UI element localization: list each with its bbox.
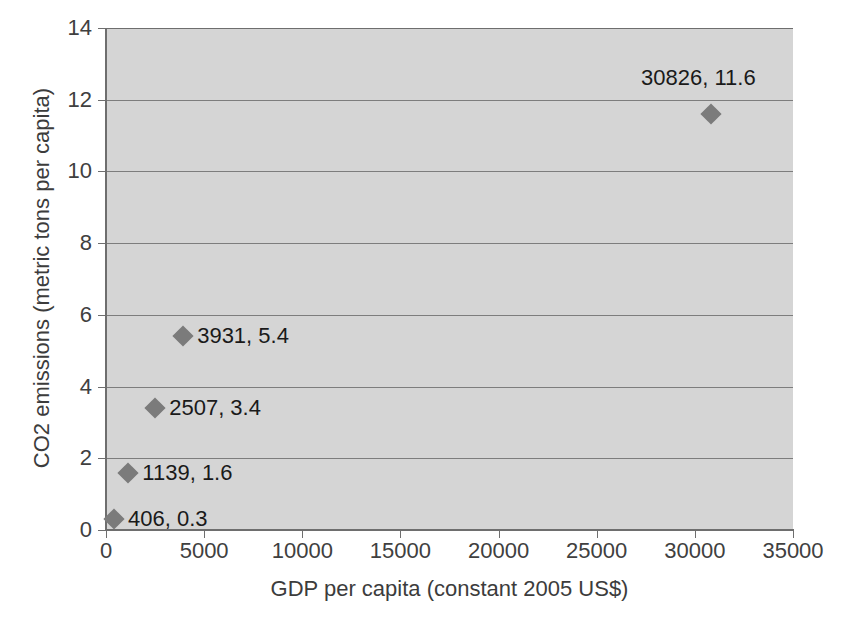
y-tick-12: [98, 100, 105, 101]
x-tick-5000: [204, 531, 205, 538]
x-tick-label-15000: 15000: [370, 540, 431, 562]
gridline-y-6: [106, 315, 793, 316]
x-tick-35000: [793, 531, 794, 538]
gridline-y-12: [106, 100, 793, 101]
x-tick-20000: [499, 531, 500, 538]
x-tick-15000: [400, 531, 401, 538]
y-tick-14: [98, 28, 105, 29]
x-tick-10000: [302, 531, 303, 538]
x-tick-label-30000: 30000: [664, 540, 725, 562]
x-axis-title: GDP per capita (constant 2005 US$): [106, 576, 793, 602]
y-tick-6: [98, 315, 105, 316]
data-point-label: 406, 0.3: [128, 508, 208, 530]
data-point-label: 3931, 5.4: [197, 325, 289, 347]
y-tick-8: [98, 243, 105, 244]
x-tick-0: [106, 531, 107, 538]
x-tick-label-35000: 35000: [762, 540, 823, 562]
gridline-y-10: [106, 171, 793, 172]
data-point-label: 30826, 11.6: [641, 67, 756, 89]
x-tick-label-25000: 25000: [566, 540, 627, 562]
chart-container: 0246810121405000100001500020000250003000…: [0, 0, 846, 631]
gridline-y-4: [106, 387, 793, 388]
x-tick-label-10000: 10000: [272, 540, 333, 562]
y-tick-4: [98, 387, 105, 388]
x-tick-label-5000: 5000: [180, 540, 229, 562]
y-tick-2: [98, 458, 105, 459]
y-tick-10: [98, 171, 105, 172]
data-point-label: 2507, 3.4: [169, 397, 261, 419]
x-tick-label-20000: 20000: [468, 540, 529, 562]
gridline-y-8: [106, 243, 793, 244]
data-point-label: 1139, 1.6: [142, 462, 232, 484]
gridline-y-14: [106, 28, 793, 29]
y-tick-0: [98, 530, 105, 531]
plot-area: [106, 28, 793, 530]
x-tick-25000: [597, 531, 598, 538]
x-tick-label-0: 0: [100, 540, 112, 562]
y-axis-line: [105, 28, 107, 531]
x-tick-30000: [695, 531, 696, 538]
x-axis-line: [105, 529, 794, 531]
y-axis-title: CO2 emissions (metric tons per capita): [29, 28, 55, 528]
